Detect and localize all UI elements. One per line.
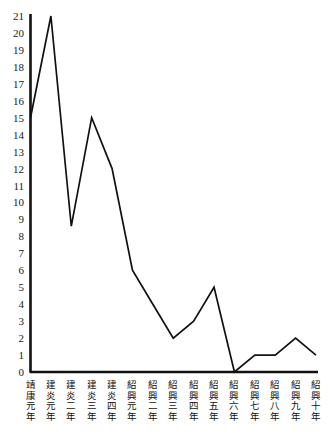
x-axis-tick-9: 紹興五年 <box>208 380 221 422</box>
x-axis-tick-1: 建炎元年 <box>44 380 57 422</box>
x-axis-tick-7: 紹興三年 <box>167 380 180 422</box>
line-chart: 0123456789101112131415161718192021 靖康元年建… <box>0 0 331 436</box>
x-axis-tick-13: 紹興九年 <box>289 380 302 422</box>
x-axis-tick-11: 紹興七年 <box>248 380 261 422</box>
x-axis-tick-6: 紹興二年 <box>146 380 159 422</box>
x-axis-tick-2: 建炎二年 <box>65 380 78 422</box>
x-axis-tick-0: 靖康元年 <box>24 380 37 422</box>
x-axis-tick-5: 紹興元年 <box>126 380 139 422</box>
data-series-line <box>31 16 317 372</box>
chart-plot-area <box>0 0 331 436</box>
x-axis-tick-3: 建炎三年 <box>85 380 98 422</box>
axis-lines <box>30 14 319 372</box>
x-axis-tick-10: 紹興六年 <box>228 380 241 422</box>
x-axis-tick-labels: 靖康元年建炎元年建炎二年建炎三年建炎四年紹興元年紹興二年紹興三年紹興四年紹興五年… <box>0 380 331 436</box>
x-axis-tick-4: 建炎四年 <box>106 380 119 422</box>
x-axis-tick-12: 紹興八年 <box>269 380 282 422</box>
x-axis-tick-8: 紹興四年 <box>187 380 200 422</box>
x-axis-tick-14: 紹興十年 <box>310 380 323 422</box>
